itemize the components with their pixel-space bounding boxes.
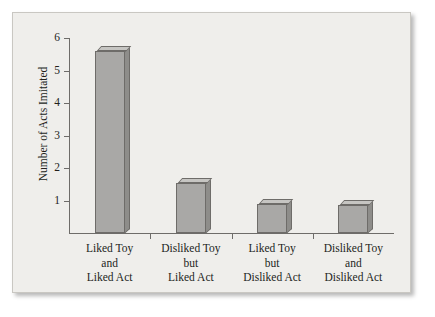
x-category-label-line: Disliked Act [232, 270, 313, 285]
bar-front-face [95, 51, 125, 233]
x-category-label-line: Liked Act [150, 270, 231, 285]
x-category-label-line: Liked Toy [69, 241, 150, 256]
bar-chart-plot-area: Number of Acts Imitated 123456 Liked Toy… [13, 13, 412, 294]
bar [257, 204, 287, 233]
y-tick-mark [64, 168, 69, 169]
y-tick-label: 4 [38, 97, 60, 109]
bar [95, 51, 125, 233]
x-category-label-line: and [313, 256, 394, 271]
x-category-label-line: but [232, 256, 313, 271]
y-tick-label: 3 [38, 130, 60, 142]
bar-front-face [176, 183, 206, 233]
x-category-label: Disliked ToybutLiked Act [150, 241, 231, 285]
x-tick-mark [150, 234, 151, 239]
y-tick-label: 1 [38, 195, 60, 207]
bar-side-face [206, 178, 211, 233]
x-category-label: Liked ToybutDisliked Act [232, 241, 313, 285]
chart-figure-panel: Number of Acts Imitated 123456 Liked Toy… [12, 12, 411, 293]
bar-top-face [340, 200, 375, 205]
x-tick-mark [232, 234, 233, 239]
y-tick-mark [64, 201, 69, 202]
y-axis-line [69, 38, 70, 234]
y-tick-mark [64, 38, 69, 39]
bar [176, 183, 206, 233]
bar [338, 205, 368, 233]
bar-top-face [259, 199, 294, 204]
y-tick-label: 2 [38, 162, 60, 174]
bar-top-face [178, 178, 213, 183]
bar-top-face [96, 46, 131, 51]
y-tick-mark [64, 136, 69, 137]
bar-front-face [338, 205, 368, 233]
y-tick-mark [64, 71, 69, 72]
y-tick-label: 6 [38, 32, 60, 44]
bar-side-face [287, 200, 292, 233]
x-category-label-line: Disliked Toy [150, 241, 231, 256]
bar-side-face [368, 201, 373, 233]
y-tick-label: 5 [38, 65, 60, 77]
x-category-label-line: Liked Act [69, 270, 150, 285]
x-category-label-line: Liked Toy [232, 241, 313, 256]
x-category-label-line: and [69, 256, 150, 271]
x-category-label: Disliked ToyandDisliked Act [313, 241, 394, 285]
y-axis-title: Number of Acts Imitated [37, 34, 49, 214]
x-category-label-line: but [150, 256, 231, 271]
x-category-label-line: Disliked Act [313, 270, 394, 285]
y-tick-mark [64, 103, 69, 104]
x-tick-mark [313, 234, 314, 239]
bar-front-face [257, 204, 287, 233]
bar-side-face [125, 47, 130, 234]
x-category-label-line: Disliked Toy [313, 241, 394, 256]
x-category-label: Liked ToyandLiked Act [69, 241, 150, 285]
